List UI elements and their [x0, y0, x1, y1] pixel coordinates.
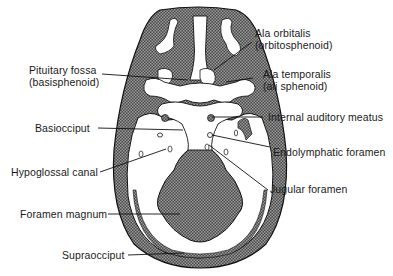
label-basiocciput: Basiocciput: [35, 122, 90, 134]
label-foramen-magnum: Foramen magnum: [20, 208, 107, 220]
label-ala-orbitalis-line1: Ala orbitalis: [255, 27, 332, 39]
label-supraocciput: Supraocciput: [62, 249, 125, 261]
left-small-foramen: [158, 133, 163, 137]
label-jugular-foramen: Jugular foramen: [270, 183, 347, 195]
left-lateral-foramen: [139, 151, 143, 157]
label-jugular-foramen-text: Jugular foramen: [270, 183, 347, 195]
left-auditory-meatus: [162, 115, 169, 122]
label-foramen-magnum-text: Foramen magnum: [20, 208, 107, 220]
label-basiocciput-text: Basiocciput: [35, 122, 90, 134]
label-hypoglossal-canal-text: Hypoglossal canal: [11, 166, 98, 178]
label-supraocciput-text: Supraocciput: [62, 249, 125, 261]
label-endolymphatic-foramen: Endolymphatic foramen: [273, 146, 385, 158]
left-hypoglossal-foramen: [168, 146, 172, 152]
label-ala-temporalis-line2: (ali sphenoid): [263, 80, 331, 92]
label-pituitary-fossa-line1: Pituitary fossa: [29, 64, 99, 76]
endolymphatic-foramen-shape: [208, 133, 213, 138]
right-auditory-meatus: [208, 115, 215, 122]
label-ala-orbitalis: Ala orbitalis (orbitosphenoid): [255, 27, 332, 51]
label-endolymphatic-foramen-text: Endolymphatic foramen: [273, 146, 385, 158]
label-internal-auditory-meatus-text: Internal auditory meatus: [268, 111, 383, 123]
label-internal-auditory-meatus: Internal auditory meatus: [268, 111, 383, 123]
label-ala-orbitalis-line2: (orbitosphenoid): [255, 39, 332, 51]
label-pituitary-fossa-line2: (basisphenoid): [29, 76, 99, 88]
right-hypoglossal-foramen: [224, 149, 228, 155]
label-hypoglossal-canal: Hypoglossal canal: [11, 166, 98, 178]
label-pituitary-fossa: Pituitary fossa (basisphenoid): [29, 64, 99, 88]
right-jugular-foramen: [205, 144, 209, 150]
right-lateral-foramen: [234, 130, 237, 136]
label-ala-temporalis-line1: Ala temporalis: [263, 68, 331, 80]
skull-diagram: [0, 0, 393, 276]
label-ala-temporalis: Ala temporalis (ali sphenoid): [263, 68, 331, 92]
